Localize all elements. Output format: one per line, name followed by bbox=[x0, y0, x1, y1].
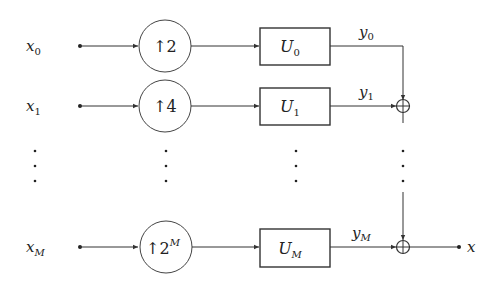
output-label-y1: y1 bbox=[358, 83, 374, 102]
upsampler-label-1: ↑4 bbox=[153, 97, 177, 116]
output-node bbox=[457, 245, 461, 249]
final-output-label: x bbox=[467, 238, 476, 256]
input-label-xM: xM bbox=[26, 238, 45, 258]
sum-junction-1 bbox=[397, 100, 410, 124]
ellipsis-sum bbox=[402, 150, 405, 183]
ellipsis-row bbox=[34, 150, 405, 183]
row-M: xM ↑2M UM yM x bbox=[26, 192, 476, 273]
filter-block-M bbox=[260, 229, 330, 267]
input-label-x1: x1 bbox=[26, 97, 41, 117]
output-label-yM: yM bbox=[351, 224, 371, 243]
sum-junction-M bbox=[397, 241, 410, 254]
ellipsis-inputs bbox=[34, 150, 37, 183]
input-label-x0: x0 bbox=[26, 37, 41, 57]
ellipsis-filters bbox=[295, 150, 298, 183]
ellipsis-upsamplers bbox=[165, 150, 168, 183]
output-label-y0: y0 bbox=[358, 23, 374, 42]
upsampler-label-0: ↑2 bbox=[153, 37, 177, 56]
row-0: x0 ↑2 U0 y0 bbox=[26, 20, 403, 100]
row-1: x1 ↑4 U1 y1 bbox=[26, 80, 410, 132]
block-diagram: x0 ↑2 U0 y0 x1 ↑4 U1 y1 bbox=[0, 0, 496, 289]
